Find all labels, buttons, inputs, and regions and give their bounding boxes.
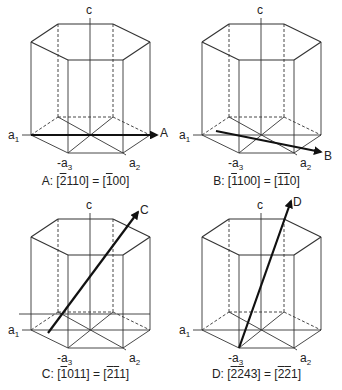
axis-label-a1: a1 bbox=[179, 129, 190, 141]
arrow-label: A bbox=[160, 127, 168, 139]
panel-caption: A: [2110] = [100] bbox=[0, 174, 171, 188]
arrow-label: D bbox=[293, 196, 302, 208]
hexagonal-prism-diagram bbox=[171, 0, 342, 195]
axis-label-c: c bbox=[86, 4, 92, 16]
axis-label-a1: a1 bbox=[8, 129, 19, 141]
axis-label-a2: a2 bbox=[300, 157, 311, 169]
direction-arrow bbox=[48, 212, 138, 333]
direction-arrow bbox=[239, 201, 291, 348]
hexagonal-prism-diagram bbox=[0, 195, 171, 390]
axis-label-a2: a2 bbox=[129, 157, 140, 169]
axis-label-a3: -a3 bbox=[57, 157, 72, 169]
axis-label-c: c bbox=[257, 4, 263, 16]
panel-caption: C: [1011] = [211] bbox=[0, 367, 171, 381]
panel-caption: B: [1100] = [110] bbox=[171, 174, 342, 188]
axis-label-a1: a1 bbox=[8, 324, 19, 336]
panel-caption: D: [2243] = [221] bbox=[171, 367, 342, 381]
panel-c: ca1-a3a2CC: [1011] = [211] bbox=[0, 195, 171, 390]
panel-b: ca1-a3a2BB: [1100] = [110] bbox=[171, 0, 342, 195]
axis-label-a3: -a3 bbox=[57, 352, 72, 364]
axis-label-a3: -a3 bbox=[228, 352, 243, 364]
direction-arrow bbox=[216, 131, 321, 152]
axis-label-c: c bbox=[86, 199, 92, 211]
panel-d: ca1-a3a2DD: [2243] = [221] bbox=[171, 195, 342, 390]
arrow-label: C bbox=[140, 204, 149, 216]
hexagonal-prism-diagram bbox=[0, 0, 171, 195]
panel-a: ca1-a3a2AA: [2110] = [100] bbox=[0, 0, 171, 195]
axis-label-a2: a2 bbox=[300, 352, 311, 364]
hexagonal-prism-diagram bbox=[171, 195, 342, 390]
arrow-label: B bbox=[324, 150, 332, 162]
axis-label-a3: -a3 bbox=[228, 157, 243, 169]
axis-label-c: c bbox=[257, 199, 263, 211]
axis-label-a2: a2 bbox=[129, 352, 140, 364]
axis-label-a1: a1 bbox=[179, 324, 190, 336]
